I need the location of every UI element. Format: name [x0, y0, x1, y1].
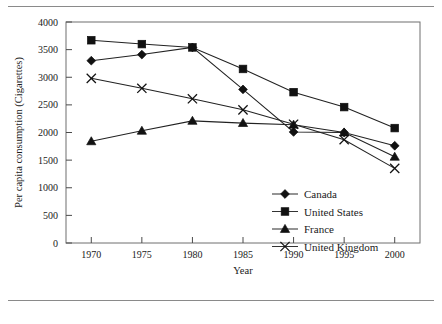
data-point-marker [137, 84, 146, 93]
data-point-marker [390, 152, 399, 160]
data-point-marker [188, 94, 197, 103]
y-tick-label: 4000 [38, 17, 58, 28]
y-tick-label: 500 [43, 210, 58, 221]
legend-label: United States [304, 206, 363, 218]
y-tick-label: 3500 [38, 44, 58, 55]
line-chart: 05001000150020002500300035004000 1970197… [0, 0, 442, 324]
x-tick-label: 1985 [233, 249, 253, 260]
x-tick-label: 2000 [385, 249, 405, 260]
x-tick-label: 1980 [182, 249, 202, 260]
y-tick-label: 3000 [38, 72, 58, 83]
chart-legend: CanadaUnited StatesFranceUnited Kingdom [272, 188, 379, 253]
y-tick-label: 2500 [38, 99, 58, 110]
data-point-marker [137, 50, 146, 59]
plot-border [66, 22, 420, 243]
figure-container: 05001000150020002500300035004000 1970197… [0, 0, 442, 324]
legend-item-canada[interactable]: Canada [272, 188, 337, 200]
top-divider-rule [8, 6, 434, 7]
legend-marker-triangle-icon [280, 224, 289, 232]
data-point-marker [390, 164, 399, 173]
series-line [91, 40, 394, 128]
bottom-divider-rule [8, 300, 434, 301]
plot-frame [66, 22, 420, 243]
y-tick-label: 2000 [38, 127, 58, 138]
data-point-marker [390, 141, 399, 150]
data-point-marker [290, 88, 298, 96]
data-point-marker [87, 74, 96, 83]
y-axis-label: Per capita consumption (Cigarettes) [13, 57, 25, 208]
y-tick-label: 0 [53, 238, 58, 249]
legend-label: Canada [304, 188, 337, 200]
x-tick-label: 1990 [284, 249, 304, 260]
legend-item-united-states[interactable]: United States [272, 206, 363, 218]
data-point-marker [238, 105, 247, 114]
series-united-states [87, 36, 398, 131]
x-tick-label: 1975 [132, 249, 152, 260]
legend-item-france[interactable]: France [272, 223, 334, 235]
series-france [87, 116, 400, 160]
legend-label: France [304, 223, 334, 235]
y-axis-ticks: 05001000150020002500300035004000 [38, 17, 72, 249]
legend-marker-diamond-icon [281, 190, 290, 199]
data-point-marker [189, 44, 197, 52]
series-layer [87, 36, 400, 173]
series-line [91, 47, 394, 145]
x-axis-label: Year [233, 265, 253, 276]
data-point-marker [87, 56, 96, 65]
data-point-marker [340, 103, 348, 111]
y-tick-label: 1000 [38, 182, 58, 193]
series-canada [87, 43, 399, 150]
legend-marker-square-icon [281, 208, 289, 216]
legend-label: United Kingdom [304, 241, 379, 253]
data-point-marker [239, 65, 247, 73]
data-point-marker [391, 124, 399, 132]
data-point-marker [87, 36, 95, 44]
x-tick-label: 1970 [81, 249, 101, 260]
data-point-marker [188, 116, 197, 124]
y-tick-label: 1500 [38, 155, 58, 166]
data-point-marker [138, 40, 146, 48]
